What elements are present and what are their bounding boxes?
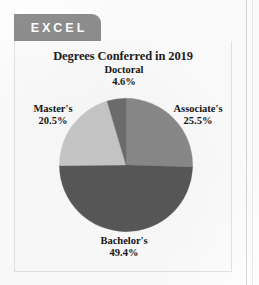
pie-chart: Doctoral 4.6% Master's 20.5% Associate's… [15,41,233,272]
pie-label-doctoral: Doctoral 4.6% [15,64,233,89]
excel-tab-label: EXCEL [28,22,88,35]
pie-label-doctoral-name: Doctoral [104,64,143,75]
page-background: EXCEL Degrees Conferred in 2019 Doctoral… [0,0,259,285]
pie-label-associates-value: 25.5% [160,115,236,127]
pie-label-bachelors: Bachelor's 49.4% [15,235,233,260]
page-rule-secondary [252,0,253,285]
pie-slice-bachelors [59,165,192,232]
pie-label-bachelors-value: 49.4% [15,247,233,259]
pie-label-doctoral-value: 4.6% [15,76,233,88]
page-rule-primary [246,0,247,285]
pie-label-associates: Associate's 25.5% [160,103,236,128]
excel-tab[interactable]: EXCEL [14,14,101,42]
pie-label-masters: Master's 20.5% [17,103,89,128]
chart-card: Degrees Conferred in 2019 Doctoral 4.6% … [14,41,232,272]
pie-label-associates-name: Associate's [174,103,223,114]
pie-label-bachelors-name: Bachelor's [100,235,147,246]
pie-label-masters-name: Master's [33,103,72,114]
pie-label-masters-value: 20.5% [17,115,89,127]
